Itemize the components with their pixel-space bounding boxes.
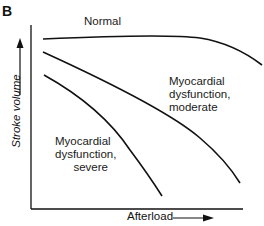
label-line: dysfunction, — [55, 148, 108, 161]
x-axis-label: Afterload — [127, 210, 173, 222]
label-normal: Normal — [84, 15, 121, 28]
y-arrow-up-icon — [17, 38, 24, 48]
curve-normal — [43, 36, 262, 65]
x-arrow-right-icon — [203, 215, 214, 222]
label-severe: Myocardial dysfunction, severe — [55, 135, 108, 174]
label-line: Myocardial — [169, 75, 230, 88]
label-line: Myocardial — [55, 135, 108, 148]
label-line: severe — [55, 161, 108, 174]
label-line: moderate — [169, 101, 230, 114]
label-line: dysfunction, — [169, 88, 230, 101]
y-axis-label: Stroke volume — [10, 71, 22, 151]
label-moderate: Myocardial dysfunction, moderate — [169, 75, 230, 114]
